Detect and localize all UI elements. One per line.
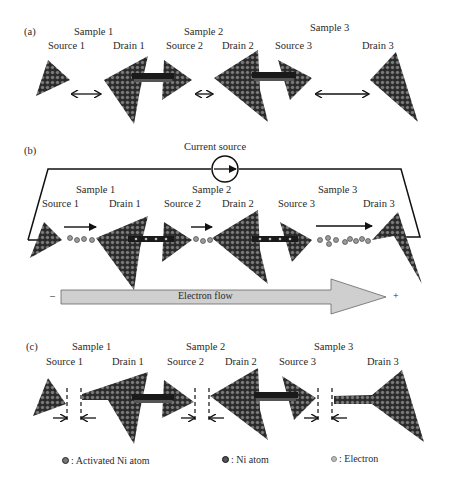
source-2-label: Source 2	[167, 356, 204, 367]
bridge-1	[132, 394, 174, 400]
activated-ni-atom-icon	[62, 457, 69, 464]
sample-2-label: Sample 2	[186, 341, 225, 352]
source-3-label: Source 3	[278, 198, 315, 209]
drain-2-electrode	[214, 50, 268, 122]
source-1-electrode	[33, 378, 66, 416]
panel-a	[36, 50, 418, 124]
source-1-label: Source 1	[42, 198, 79, 209]
source-1-label: Source 1	[46, 356, 83, 367]
bridge-2	[254, 392, 298, 398]
diagram-canvas	[0, 0, 450, 486]
source-2-label: Source 2	[164, 198, 201, 209]
drain-2-electrode	[210, 368, 268, 440]
sample-2-label: Sample 2	[192, 184, 231, 195]
panel-c-tag: (c)	[26, 341, 38, 352]
electron-icon	[331, 456, 337, 462]
source-3-label: Source 3	[275, 40, 312, 51]
drain-3-electrode	[334, 370, 424, 442]
source-1-electrode	[36, 60, 70, 96]
electron-flow-label: Electron flow	[178, 290, 233, 301]
ni-atom-icon	[222, 456, 229, 463]
bridge-2	[252, 72, 296, 78]
source-3-label: Source 3	[279, 356, 316, 367]
drain-1-electrode	[96, 216, 148, 290]
drain-1-electrode	[82, 372, 148, 444]
drain-3-electrode	[370, 52, 418, 122]
panel-b-tag: (b)	[24, 145, 36, 156]
electron-flow-plus: +	[393, 290, 399, 301]
sample-1-label: Sample 1	[74, 26, 113, 37]
electron-chain-2	[194, 237, 213, 244]
drain-1-label: Drain 1	[113, 40, 145, 51]
legend-electron: : Electron	[331, 453, 378, 464]
sample-2-label: Sample 2	[184, 26, 223, 37]
source-2-label: Source 2	[166, 40, 203, 51]
drain-2-label: Drain 2	[222, 198, 254, 209]
legend-activated-ni-atom: : Activated Ni atom	[62, 455, 150, 466]
drain-1-label: Drain 1	[112, 356, 144, 367]
current-source-label: Current source	[184, 141, 246, 152]
legend-label: : Electron	[339, 453, 378, 464]
drain-1-electrode	[104, 56, 148, 124]
sample-1-label: Sample 1	[72, 341, 111, 352]
sample-1-label: Sample 1	[76, 184, 115, 195]
electron-chain-1	[68, 236, 95, 243]
drain-2-electrode	[212, 210, 268, 284]
electron-chain-3	[318, 236, 371, 247]
drain-2-label: Drain 2	[222, 40, 254, 51]
drain-3-label: Drain 3	[362, 40, 394, 51]
legend-label: : Ni atom	[231, 454, 269, 465]
panel-c	[33, 368, 424, 444]
drain-2-label: Drain 2	[225, 356, 257, 367]
panel-a-tag: (a)	[24, 26, 36, 37]
electron-flow-minus: –	[50, 290, 55, 301]
bridge-1	[132, 73, 174, 79]
legend-label: : Activated Ni atom	[71, 455, 150, 466]
legend-ni-atom: : Ni atom	[222, 454, 269, 465]
source-1-label: Source 1	[48, 40, 85, 51]
drain-3-label: Drain 3	[367, 356, 399, 367]
sample-3-label: Sample 3	[314, 341, 353, 352]
sample-3-label: Sample 3	[310, 22, 349, 33]
sample-3-label: Sample 3	[318, 184, 357, 195]
drain-1-label: Drain 1	[109, 198, 141, 209]
drain-3-label: Drain 3	[363, 198, 395, 209]
drain-3-electrode	[372, 212, 422, 284]
